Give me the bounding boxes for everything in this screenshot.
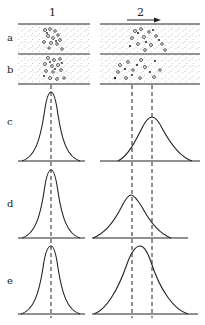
column-section-1 bbox=[18, 24, 90, 84]
row-label-e: e bbox=[7, 275, 13, 286]
peak-2c bbox=[118, 117, 192, 161]
reference-lines-2 bbox=[132, 85, 152, 318]
row-label-d: d bbox=[7, 198, 14, 209]
flow-arrow-icon bbox=[127, 18, 161, 23]
row-label-b: b bbox=[7, 64, 13, 75]
column-label-2: 2 bbox=[137, 6, 144, 19]
column-label-1: 1 bbox=[49, 6, 56, 19]
band-broadening-diagram: 1 2 a b c d e bbox=[0, 0, 205, 325]
row-label-a: a bbox=[7, 32, 13, 43]
row-label-c: c bbox=[7, 116, 13, 127]
peak-2d bbox=[93, 195, 171, 238]
peak-2e bbox=[94, 246, 188, 314]
column-section-2 bbox=[100, 24, 200, 84]
